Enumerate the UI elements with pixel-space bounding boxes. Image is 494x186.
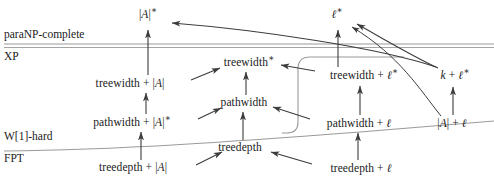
class-label-xp: XP [4, 51, 19, 63]
edge-pathwidthA-to-pathwidth [198, 108, 221, 119]
node-pathwidth-plus-abs-a-star: pathwidth + |A|∗ [93, 117, 171, 129]
node-treedepth-plus-abs-a: treedepth + |A| [99, 162, 167, 174]
node-k-plus-ell-star: k + ℓ∗ [441, 70, 470, 82]
edge-treedepthL-to-treedepth [271, 152, 312, 164]
node-abs-a-star: |A|∗ [139, 9, 157, 21]
node-treewidth-plus-ell-star: treewidth + ℓ∗ [330, 70, 398, 82]
edge-kellstar-to-absAstar [172, 23, 436, 67]
node-pathwidth-plus-ell: pathwidth + ℓ [327, 118, 391, 130]
complexity-hierarchy-diagram: paraNP-complete XP W[1]-hard FPT |A|∗ ℓ∗… [0, 0, 494, 186]
node-treedepth-plus-ell: treedepth + ℓ [330, 163, 391, 175]
node-treewidth-plus-abs-a: treewidth + |A| [96, 78, 165, 90]
class-label-paranp-complete: paraNP-complete [4, 29, 84, 41]
edge-treewidthA-to-treewidthstar [191, 68, 220, 80]
edge-pathwidthL-to-pathwidth [273, 107, 310, 119]
node-pathwidth: pathwidth [221, 97, 268, 109]
node-abs-a-plus-ell: |A| + ℓ [437, 118, 466, 130]
node-ell-star: ℓ∗ [331, 9, 342, 21]
node-treedepth: treedepth [218, 142, 262, 154]
edge-kellstar-to-ellstar [357, 24, 438, 68]
edge-treedepthA-to-treedepth [196, 152, 222, 165]
class-label-w1-hard: W[1]-hard [4, 131, 53, 143]
class-label-fpt: FPT [4, 153, 24, 165]
node-treewidth-star: treewidth∗ [224, 57, 275, 69]
